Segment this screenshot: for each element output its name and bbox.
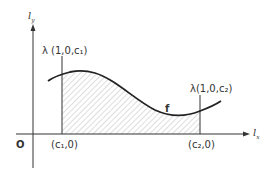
origin-label: O (16, 139, 25, 150)
y-axis (31, 24, 36, 168)
curve-label: f (165, 103, 170, 114)
c1-bottom-label: (c₁,0) (51, 139, 78, 150)
x-axis-arrow-icon (243, 132, 250, 137)
integral-diagram: ly lx O f λ (1,0,c₁) λ(1,0,c₂) (c₁,0) (c… (0, 0, 275, 177)
y-axis-arrow-icon (31, 24, 36, 31)
x-axis-label: lx (253, 127, 260, 140)
c2-top-label: λ(1,0,c₂) (190, 83, 232, 94)
y-axis-label: ly (28, 10, 35, 24)
c2-bottom-label: (c₂,0) (188, 139, 215, 150)
c1-top-label: λ (1,0,c₁) (42, 45, 88, 56)
